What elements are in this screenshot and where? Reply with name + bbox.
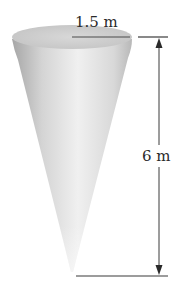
cone (12, 25, 132, 272)
radius-label: 1.5 m (75, 13, 118, 31)
arrow-down-icon (156, 265, 163, 275)
arrow-up-icon (156, 38, 163, 48)
height-label: 6 m (142, 145, 171, 167)
